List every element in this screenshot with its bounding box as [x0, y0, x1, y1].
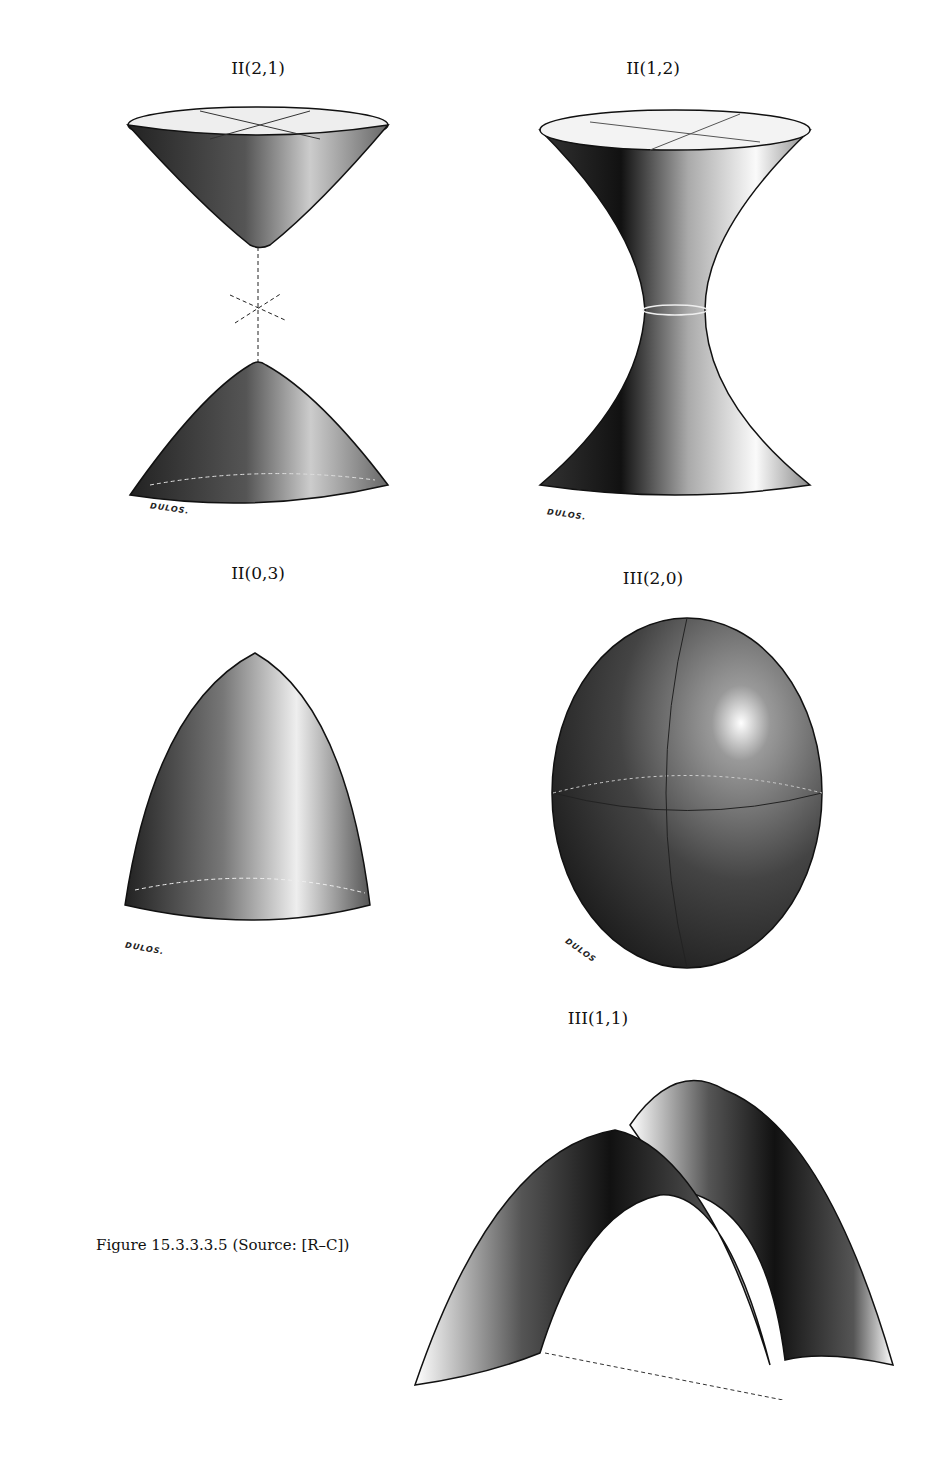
figure-label-ii-1-2: II(1,2) [553, 58, 753, 78]
hyperboloid-two-sheets-illustration [110, 95, 410, 515]
figure-caption: Figure 15.3.3.3.5 (Source: [R–C]) [96, 1236, 349, 1254]
engraver-signature: DULOS. [547, 507, 587, 521]
figure-label-ii-0-3: II(0,3) [158, 563, 358, 583]
elliptic-paraboloid-illustration [115, 645, 385, 925]
hyperboloid-one-sheet-illustration [530, 100, 820, 500]
figure-label-ii-2-1: II(2,1) [158, 58, 358, 78]
figure-label-iii-2-0: III(2,0) [553, 568, 753, 588]
hyperbolic-paraboloid-illustration [405, 1070, 905, 1400]
figure-label-iii-1-1: III(1,1) [498, 1008, 698, 1028]
engraver-signature: DULOS. [125, 941, 166, 957]
ellipsoid-illustration [545, 608, 825, 978]
